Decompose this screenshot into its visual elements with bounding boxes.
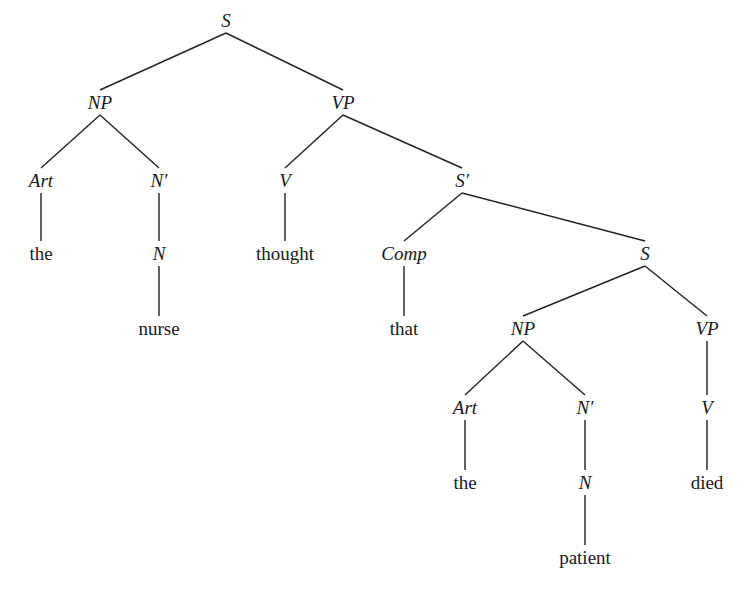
tree-edge [645, 266, 707, 316]
tree-edge [462, 193, 645, 241]
word-that: that [390, 319, 419, 338]
word-thought: thought [256, 244, 314, 263]
word-died: died [691, 473, 724, 492]
tree-edge [41, 115, 100, 168]
node-art-2: Art [453, 398, 477, 417]
tree-edge [226, 33, 343, 90]
node-v-1: V [279, 171, 291, 190]
word-nurse: nurse [138, 319, 179, 338]
tree-edge [100, 115, 159, 168]
node-s-root: S [221, 11, 231, 30]
node-np-subject: NP [88, 93, 112, 112]
node-v-2: V [701, 398, 713, 417]
tree-edges [0, 0, 747, 592]
node-art-1: Art [29, 171, 53, 190]
tree-edge [523, 266, 645, 316]
node-nbar-2: N′ [577, 398, 594, 417]
word-the-2: the [453, 473, 476, 492]
word-patient: patient [559, 548, 611, 567]
tree-edge [465, 341, 523, 395]
node-vp-embedded: VP [695, 319, 718, 338]
node-n-2: N [579, 473, 592, 492]
tree-edge [343, 115, 462, 168]
word-the-1: the [29, 244, 52, 263]
node-np-embedded: NP [511, 319, 535, 338]
node-sbar: S′ [455, 171, 469, 190]
node-n-1: N [153, 244, 166, 263]
node-comp: Comp [381, 244, 426, 263]
tree-edge [404, 193, 462, 241]
node-vp-main: VP [331, 93, 354, 112]
tree-edge [285, 115, 343, 168]
node-nbar-1: N′ [151, 171, 168, 190]
tree-edge [523, 341, 585, 395]
node-s-embedded: S [640, 244, 650, 263]
tree-edge [100, 33, 226, 90]
